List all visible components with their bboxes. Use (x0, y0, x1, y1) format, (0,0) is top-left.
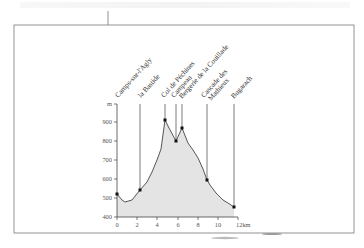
label-la-bastide: la Bastide (137, 73, 162, 100)
elevation-area (117, 120, 234, 217)
x-tick-12km: 12km (236, 221, 251, 228)
x-tick-10: 10 (215, 221, 221, 228)
x-tick-6: 6 (176, 221, 179, 228)
label-bugarach: Bugarach (230, 74, 255, 100)
y-tick-500: 500 (102, 194, 112, 201)
y-unit-label: m (107, 100, 112, 107)
scan-smudge (211, 237, 239, 239)
x-tick-8: 8 (196, 221, 199, 228)
x-tick-2: 2 (135, 221, 138, 228)
marker-cascade (206, 179, 209, 182)
marker-camps (116, 193, 119, 196)
y-ticks (114, 104, 117, 217)
marker-bergerie (181, 127, 184, 130)
y-tick-800: 800 (102, 137, 112, 144)
marker-bugarach (233, 206, 236, 209)
marker-col-de-pechines (164, 119, 167, 122)
marker-la-bastide (139, 189, 142, 192)
marker-campeau (175, 140, 178, 143)
y-tick-400: 400 (102, 213, 112, 220)
x-ticks (117, 217, 238, 220)
x-tick-4: 4 (155, 221, 159, 228)
x-tick-0: 0 (115, 221, 118, 228)
y-tick-700: 700 (102, 156, 112, 163)
y-tick-600: 600 (102, 175, 112, 182)
elevation-chart: m 900 800 700 600 500 400 0 2 4 6 8 10 1… (0, 0, 364, 248)
y-tick-900: 900 (102, 118, 112, 125)
scan-smudge (262, 233, 282, 235)
